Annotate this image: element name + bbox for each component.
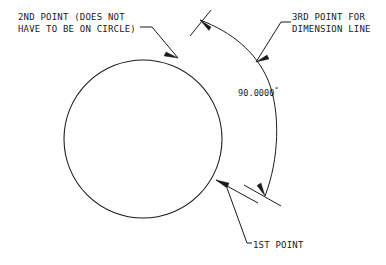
dimension-arrowhead-bottom: [257, 183, 265, 196]
label-third-point: 3RD POINT FOR DIMENSION LINE: [292, 11, 371, 35]
label-second-point-line2: HAVE TO BE ON CIRCLE): [18, 24, 136, 34]
main-circle: [64, 60, 222, 218]
label-first-point-text: 1ST POINT: [253, 240, 304, 250]
leader-line-third-point: [256, 22, 291, 62]
label-first-point: 1ST POINT: [253, 239, 304, 251]
leader-arrowhead-first-point: [216, 180, 229, 188]
leader-line-second-point: [140, 27, 178, 58]
degree-symbol: °: [275, 86, 279, 94]
dimension-arrowhead-top: [200, 20, 211, 31]
angle-dimension-value: 90.0000°: [238, 87, 279, 99]
label-third-point-line2: DIMENSION LINE: [292, 24, 371, 34]
label-second-point: 2ND POINT (DOES NOT HAVE TO BE ON CIRCLE…: [18, 11, 136, 35]
drawing-vector-layer: [0, 0, 386, 265]
angle-value-number: 90.0000: [238, 88, 275, 98]
label-third-point-line1: 3RD POINT FOR: [292, 12, 365, 22]
leader-line-first-point: [227, 188, 252, 243]
label-second-point-line1: 2ND POINT (DOES NOT: [18, 12, 125, 22]
technical-drawing-canvas: 2ND POINT (DOES NOT HAVE TO BE ON CIRCLE…: [0, 0, 386, 265]
